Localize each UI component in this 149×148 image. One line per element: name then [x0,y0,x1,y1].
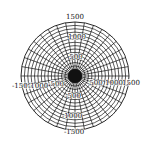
label-right-inner: 1000 [105,79,123,87]
polar-grid-svg: 1500 1000 500 -1500 -1000 -500 -1500 -10… [0,0,149,148]
label-left-inner: -1000 [28,82,48,90]
label-right: 1500 [122,79,140,87]
label-bottom: -1500 [64,128,84,136]
label-right-mid: 500 [89,79,102,87]
center-core [68,69,82,83]
polar-grid-diagram: 1500 1000 500 -1500 -1000 -500 -1500 -10… [0,0,149,148]
label-bottom-mid: -500 [65,92,81,100]
label-top: 1500 [66,13,84,21]
label-top-mid: 500 [69,53,82,61]
label-top-inner: 1000 [68,33,86,41]
label-bottom-inner: -1000 [62,112,82,120]
label-left-mid: -500 [48,80,64,88]
